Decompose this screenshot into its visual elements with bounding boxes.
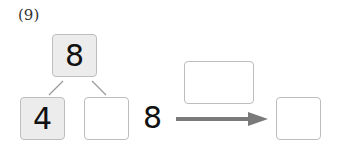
unknown-part-answer-box[interactable] <box>84 97 129 140</box>
known-part: 4 <box>33 101 52 136</box>
known-part-box: 4 <box>20 97 65 140</box>
expression-start-number: 8 <box>143 100 162 135</box>
operation-answer-box[interactable] <box>184 61 254 104</box>
whole-number: 8 <box>65 38 84 73</box>
result-answer-box[interactable] <box>276 97 321 140</box>
whole-number-box: 8 <box>52 34 97 77</box>
